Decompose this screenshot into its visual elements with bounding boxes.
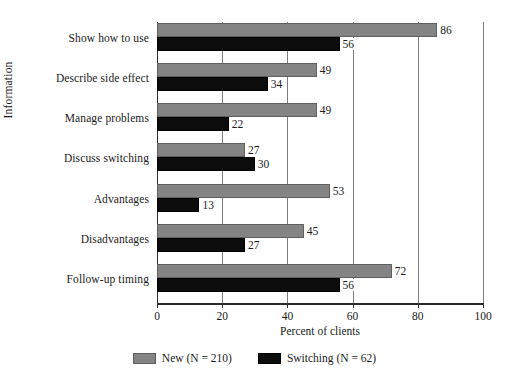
bar-value-label: 56: [342, 38, 356, 50]
bar-value-label: 27: [247, 144, 261, 156]
bar-value-label: 45: [306, 225, 320, 237]
x-tick-label: 80: [412, 310, 424, 322]
bar-value-label: 22: [231, 118, 245, 130]
chart-legend: New (N = 210)Switching (N = 62): [0, 352, 509, 364]
plot-area: Show how to use8656Describe side effect4…: [157, 22, 483, 303]
bar-new: 27: [157, 143, 245, 157]
x-tick: [483, 303, 484, 308]
category-row: Discuss switching2730: [157, 143, 483, 173]
bar-new: 45: [157, 224, 304, 238]
category-label: Disadvantages: [81, 233, 149, 245]
bar-switching: 30: [157, 157, 255, 171]
category-label: Manage problems: [65, 112, 149, 124]
bar-switching: 56: [157, 37, 340, 51]
bar-chart-figure: Information Show how to use8656Describe …: [0, 0, 509, 386]
bar-new: 53: [157, 184, 330, 198]
bar-value-label: 49: [319, 104, 333, 116]
category-row: Manage problems4922: [157, 103, 483, 133]
legend-label: Switching (N = 62): [287, 352, 376, 364]
bar-value-label: 56: [342, 279, 356, 291]
category-label: Follow-up timing: [67, 273, 149, 285]
category-label: Show how to use: [69, 32, 149, 44]
bar-new: 86: [157, 23, 437, 37]
bar-value-label: 49: [319, 64, 333, 76]
bar-switching: 13: [157, 198, 199, 212]
bar-value-label: 53: [332, 185, 346, 197]
x-tick-label: 40: [282, 310, 294, 322]
x-tick: [418, 303, 419, 308]
legend-swatch-icon: [258, 353, 281, 364]
category-label: Discuss switching: [64, 152, 149, 164]
legend-entry: Switching (N = 62): [258, 352, 376, 364]
x-tick: [157, 303, 158, 308]
x-tick-label: 0: [154, 310, 160, 322]
legend-entry: New (N = 210): [133, 352, 232, 364]
x-tick: [353, 303, 354, 308]
bar-value-label: 86: [439, 24, 453, 36]
x-tick-label: 20: [216, 310, 228, 322]
bar-value-label: 13: [201, 199, 215, 211]
category-row: Show how to use8656: [157, 23, 483, 53]
x-axis-title: Percent of clients: [157, 325, 483, 337]
bar-new: 72: [157, 264, 392, 278]
x-tick: [287, 303, 288, 308]
bar-value-label: 34: [270, 78, 284, 90]
category-row: Follow-up timing7256: [157, 264, 483, 294]
bar-new: 49: [157, 63, 317, 77]
category-row: Disadvantages4527: [157, 224, 483, 254]
bar-switching: 56: [157, 278, 340, 292]
bar-switching: 22: [157, 117, 229, 131]
bar-new: 49: [157, 103, 317, 117]
category-label: Advantages: [94, 193, 149, 205]
legend-label: New (N = 210): [162, 352, 232, 364]
y-axis-title: Information: [2, 30, 14, 150]
category-row: Describe side effect4934: [157, 63, 483, 93]
legend-swatch-icon: [133, 353, 156, 364]
bar-value-label: 72: [394, 265, 408, 277]
bar-switching: 27: [157, 238, 245, 252]
bar-value-label: 27: [247, 239, 261, 251]
x-tick-label: 60: [347, 310, 359, 322]
bar-switching: 34: [157, 77, 268, 91]
x-axis-line: 020406080100: [157, 303, 483, 305]
bar-value-label: 30: [257, 158, 271, 170]
x-tick-label: 100: [474, 310, 491, 322]
category-label: Describe side effect: [56, 72, 149, 84]
gridline-100: [483, 22, 484, 303]
x-tick: [222, 303, 223, 308]
category-row: Advantages5313: [157, 184, 483, 214]
